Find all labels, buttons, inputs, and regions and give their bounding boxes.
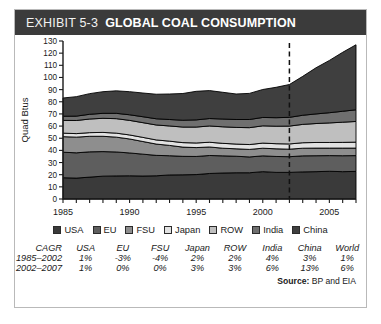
exhibit-number: EXHIBIT 5-3 xyxy=(26,16,98,30)
cagr-value: -3% xyxy=(104,253,141,263)
legend-swatch-icon xyxy=(252,226,260,234)
cagr-value: 3% xyxy=(291,253,328,263)
cagr-col-header: USA xyxy=(67,243,104,253)
exhibit-card: EXHIBIT 5-3 GLOBAL COAL CONSUMPTION 0102… xyxy=(14,9,367,308)
chart-plot-area: 0102030405060708090100110120130198519901… xyxy=(15,35,366,220)
legend-label: China xyxy=(303,225,327,235)
cagr-value: 1% xyxy=(328,253,366,263)
y-tick-label: 120 xyxy=(43,49,57,58)
y-tick-label: 40 xyxy=(48,146,58,155)
x-tick-label: 2000 xyxy=(253,207,273,217)
y-tick-label: 30 xyxy=(48,159,58,168)
source-label: Source: xyxy=(277,276,309,286)
y-tick-label: 100 xyxy=(43,73,57,82)
y-tick-label: 70 xyxy=(48,110,58,119)
cagr-value: 2% xyxy=(216,253,253,263)
legend-label: India xyxy=(263,225,283,235)
cagr-value: 13% xyxy=(291,263,328,273)
legend-swatch-icon xyxy=(209,226,217,234)
cagr-period-label: 2002–2007 xyxy=(15,263,67,273)
legend-item-row: ROW xyxy=(209,225,243,235)
legend-label: EU xyxy=(104,225,117,235)
cagr-col-header: EU xyxy=(104,243,141,253)
chart-legend: USAEUFSUJapanROWIndiaChina xyxy=(15,221,366,239)
cagr-value: -4% xyxy=(141,253,178,263)
legend-item-usa: USA xyxy=(53,225,83,235)
cagr-corner-label: CAGR xyxy=(15,243,67,253)
legend-item-india: India xyxy=(252,225,283,235)
source-text: BP and EIA xyxy=(312,276,356,286)
y-tick-label: 10 xyxy=(48,183,58,192)
cagr-value: 6% xyxy=(254,263,291,273)
legend-label: USA xyxy=(64,225,83,235)
x-tick-label: 1985 xyxy=(53,207,73,217)
cagr-col-header: FSU xyxy=(141,243,178,253)
cagr-value: 1% xyxy=(67,253,104,263)
cagr-value: 3% xyxy=(179,263,217,273)
cagr-body: 1985–20021%-3%-4%2%2%4%3%1%2002–20071%0%… xyxy=(15,253,366,273)
cagr-table: CAGR USAEUFSUJapanROWIndiaChinaWorld 198… xyxy=(15,243,366,273)
y-tick-label: 0 xyxy=(52,195,57,204)
cagr-value: 2% xyxy=(179,253,217,263)
legend-label: FSU xyxy=(136,225,155,235)
cagr-row: 1985–20021%-3%-4%2%2%4%3%1% xyxy=(15,253,366,263)
legend-swatch-icon xyxy=(125,226,133,234)
area-band-china xyxy=(63,45,356,120)
cagr-value: 0% xyxy=(104,263,141,273)
y-tick-label: 80 xyxy=(48,98,58,107)
x-tick-label: 2005 xyxy=(319,207,339,217)
legend-item-eu: EU xyxy=(93,225,117,235)
cagr-value: 1% xyxy=(67,263,104,273)
legend-swatch-icon xyxy=(93,226,101,234)
y-tick-label: 50 xyxy=(48,134,58,143)
cagr-col-header: China xyxy=(291,243,328,253)
cagr-header-row: CAGR USAEUFSUJapanROWIndiaChinaWorld xyxy=(15,243,366,253)
cagr-value: 0% xyxy=(141,263,178,273)
y-tick-label: 90 xyxy=(48,86,58,95)
cagr-value: 6% xyxy=(328,263,366,273)
y-tick-label: 60 xyxy=(48,122,58,131)
page-title: GLOBAL COAL CONSUMPTION xyxy=(105,16,296,30)
cagr-value: 3% xyxy=(216,263,253,273)
y-tick-label: 110 xyxy=(44,61,57,70)
cagr-col-header: Japan xyxy=(179,243,217,253)
x-tick-label: 1995 xyxy=(186,207,206,217)
legend-item-china: China xyxy=(292,225,327,235)
cagr-col-header: ROW xyxy=(216,243,253,253)
y-tick-label: 20 xyxy=(48,171,58,180)
y-tick-label: 130 xyxy=(43,37,57,46)
stacked-area-chart: 0102030405060708090100110120130198519901… xyxy=(15,35,366,220)
cagr-value: 4% xyxy=(254,253,291,263)
source-line: Source: BP and EIA xyxy=(277,276,356,286)
cagr-row: 2002–20071%0%0%3%3%6%13%6% xyxy=(15,263,366,273)
legend-swatch-icon xyxy=(292,226,300,234)
legend-item-fsu: FSU xyxy=(125,225,155,235)
legend-item-japan: Japan xyxy=(164,225,200,235)
cagr-period-label: 1985–2002 xyxy=(15,253,67,263)
legend-label: ROW xyxy=(220,225,243,235)
y-axis-title: Quad Btus xyxy=(19,97,30,142)
legend-label: Japan xyxy=(175,225,200,235)
cagr-col-header: India xyxy=(254,243,291,253)
legend-swatch-icon xyxy=(164,226,172,234)
cagr-col-header: World xyxy=(328,243,366,253)
exhibit-title-bar: EXHIBIT 5-3 GLOBAL COAL CONSUMPTION xyxy=(15,10,366,35)
x-tick-label: 1990 xyxy=(120,207,140,217)
legend-swatch-icon xyxy=(53,226,61,234)
